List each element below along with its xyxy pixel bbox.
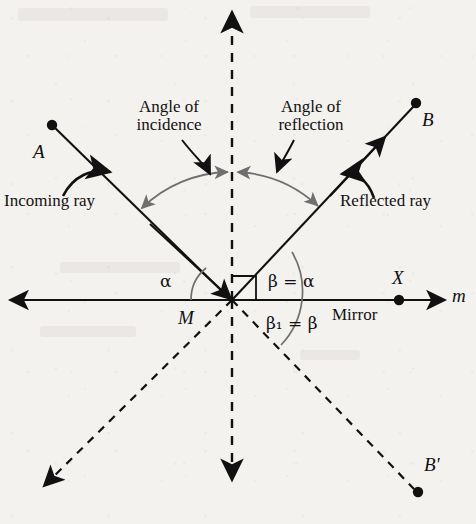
point-a-label: A xyxy=(33,142,45,163)
angle-of-incidence-label: Angle of incidence xyxy=(110,98,228,135)
incidence-measure-arc xyxy=(142,172,228,208)
beta-equals-alpha-label: β = α xyxy=(268,272,314,290)
reflection-diagram-canvas: Angle of incidence Angle of reflection I… xyxy=(0,0,476,524)
virtual-rays xyxy=(44,300,423,497)
diagram-vector-layer xyxy=(0,0,476,524)
incidence-leader-arrow xyxy=(182,140,210,174)
point-b-dot xyxy=(411,98,421,108)
beta1-equals-beta-label: β₁ = β xyxy=(266,314,318,332)
point-a-dot xyxy=(47,120,57,130)
point-x-dot xyxy=(394,295,404,305)
point-b-prime-label: B' xyxy=(424,455,440,476)
alpha-label: α xyxy=(160,272,171,290)
reflected-ray-label: Reflected ray xyxy=(340,192,431,210)
mirror-label: Mirror xyxy=(332,306,377,324)
point-b-label: B xyxy=(422,110,434,131)
angle-of-reflection-label: Angle of reflection xyxy=(250,98,372,135)
point-x-label: X xyxy=(392,268,404,289)
incoming-ray-label: Incoming ray xyxy=(4,192,95,210)
point-m-label: M xyxy=(178,308,194,329)
point-b-prime-dot xyxy=(413,487,423,497)
reflection-measure-arc xyxy=(238,172,318,206)
reflection-leader-arrow xyxy=(277,140,294,172)
line-m-label: m xyxy=(452,286,466,307)
